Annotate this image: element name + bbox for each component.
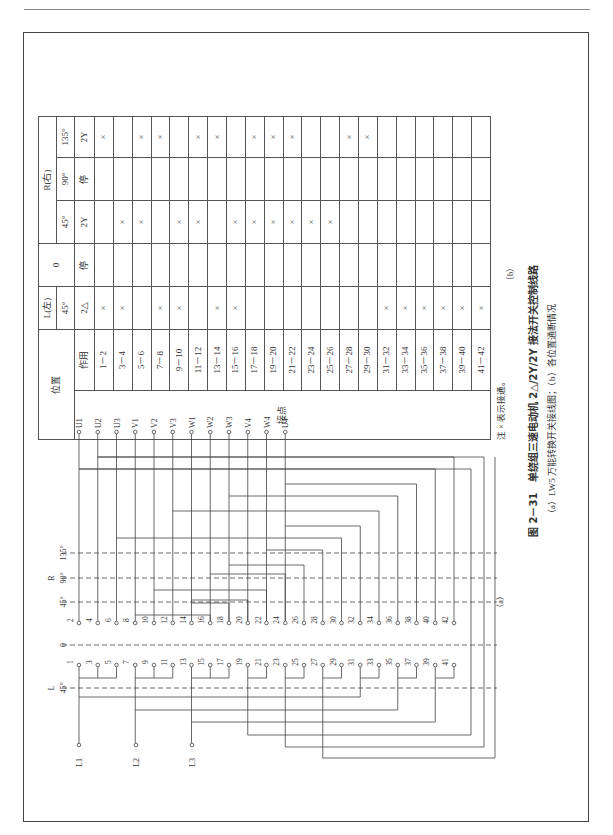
terminal-label-odd: 21: [254, 658, 263, 666]
terminal-even: [77, 621, 81, 625]
output-terminal: [152, 430, 156, 434]
output-terminal: [246, 430, 250, 434]
terminal-label-odd: 33: [366, 658, 375, 666]
terminal-even: [190, 621, 194, 625]
terminal-odd: [208, 663, 212, 667]
terminal-even: [227, 621, 231, 625]
label-l: L: [47, 685, 56, 690]
terminal-label-odd: 31: [347, 658, 356, 666]
label-r45: 45°: [59, 596, 68, 607]
wire: [267, 550, 323, 621]
output-label-u2: U2: [94, 418, 103, 428]
input-terminal: [134, 743, 138, 747]
terminal-label-even: 12: [160, 616, 169, 624]
label-r90: 90°: [59, 572, 68, 583]
wiring-diagram: 135°90°45°045°RL214365871091211141316151…: [0, 0, 613, 835]
terminal-odd: [396, 663, 400, 667]
terminal-label-odd: 41: [441, 658, 450, 666]
terminal-label-odd: 27: [310, 658, 319, 666]
wire: [98, 457, 454, 621]
terminal-label-even: 36: [385, 616, 394, 624]
terminal-even: [265, 621, 269, 625]
input-label-l1: L1: [75, 758, 84, 767]
output-terminal: [96, 430, 100, 434]
label-r135: 135°: [59, 545, 68, 560]
input-label-l2: L2: [132, 758, 141, 767]
terminal-label-odd: 11: [160, 658, 169, 665]
terminal-label-even: 8: [122, 618, 131, 622]
terminal-odd: [96, 663, 100, 667]
wire: [285, 484, 416, 621]
wire: [173, 511, 379, 621]
terminal-odd: [415, 663, 419, 667]
terminal-label-even: 24: [272, 616, 281, 624]
output-terminal: [190, 430, 194, 434]
terminal-label-even: 28: [310, 616, 319, 624]
terminal-label-even: 38: [404, 616, 413, 624]
wire: [323, 457, 495, 758]
terminal-even: [396, 621, 400, 625]
output-label-v4: V4: [244, 418, 253, 428]
terminal-label-even: 4: [85, 618, 94, 622]
terminal-even: [321, 621, 325, 625]
terminal-odd: [152, 663, 156, 667]
output-terminal: [227, 430, 231, 434]
terminal-odd: [77, 663, 81, 667]
terminal-odd: [321, 663, 325, 667]
terminal-label-even: 6: [104, 618, 113, 622]
input-terminal: [190, 743, 194, 747]
terminal-even: [340, 621, 344, 625]
terminal-label-odd: 5: [104, 660, 113, 664]
terminal-label-odd: 19: [235, 658, 244, 666]
output-label-u3: U3: [113, 418, 122, 428]
terminal-odd: [171, 663, 175, 667]
terminal-odd: [265, 663, 269, 667]
terminal-label-even: 26: [291, 616, 300, 624]
output-label-v1: V1: [131, 418, 140, 428]
terminal-label-odd: 35: [385, 658, 394, 666]
terminal-label-even: 32: [347, 616, 356, 624]
output-terminal: [265, 430, 269, 434]
terminal-label-odd: 3: [85, 660, 94, 664]
output-label-w4: W4: [263, 416, 272, 428]
terminal-even: [302, 621, 306, 625]
output-label-u4: U4: [281, 418, 290, 428]
terminal-label-even: 2: [66, 618, 75, 622]
output-terminal: [208, 430, 212, 434]
terminal-label-odd: 7: [122, 660, 131, 664]
terminal-even: [283, 621, 287, 625]
output-terminal: [115, 430, 119, 434]
terminal-even: [246, 621, 250, 625]
terminal-label-even: 22: [254, 616, 263, 624]
terminal-even: [208, 621, 212, 625]
output-terminal: [77, 430, 81, 434]
terminal-label-odd: 25: [291, 658, 300, 666]
wire: [192, 678, 436, 722]
output-terminal: [171, 430, 175, 434]
terminal-even: [152, 621, 156, 625]
terminal-label-even: 14: [179, 616, 188, 624]
terminal-even: [452, 621, 456, 625]
terminal-label-even: 18: [216, 616, 225, 624]
output-label-w2: W2: [206, 416, 215, 428]
output-terminal: [283, 430, 287, 434]
wire: [79, 678, 360, 697]
terminal-odd: [433, 663, 437, 667]
terminal-even: [433, 621, 437, 625]
output-label-v2: V2: [150, 418, 159, 428]
terminal-label-even: 10: [141, 616, 150, 624]
terminal-label-even: 40: [422, 616, 431, 624]
output-label-w1: W1: [188, 416, 197, 428]
terminal-odd: [302, 663, 306, 667]
terminal-label-odd: 23: [272, 658, 281, 666]
terminal-label-even: 34: [366, 616, 375, 624]
terminal-label-odd: 37: [404, 658, 413, 666]
wire: [135, 678, 398, 710]
label-l45: 45°: [59, 682, 68, 693]
terminal-odd: [283, 663, 287, 667]
terminal-odd: [246, 663, 250, 667]
terminal-label-even: 30: [329, 616, 338, 624]
terminal-odd: [115, 663, 119, 667]
terminal-odd: [190, 663, 194, 667]
terminal-odd: [227, 663, 231, 667]
